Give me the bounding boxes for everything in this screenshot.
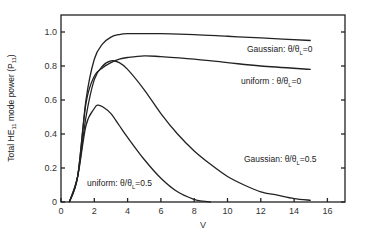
- y-tick-label: 0.2: [44, 163, 57, 173]
- x-tick-label: 8: [192, 206, 197, 216]
- label-uniform-0: uniform : θ/θL=0: [241, 76, 302, 88]
- curves: [69, 34, 310, 202]
- y-tick-label: 0: [52, 197, 57, 207]
- x-tick-label: 6: [158, 206, 163, 216]
- x-tick-label: 2: [92, 206, 97, 216]
- x-axis-label: V: [200, 220, 206, 230]
- x-tick-label: 10: [222, 206, 232, 216]
- chart: 0246810121416 00.20.40.60.81.0 V Total H…: [0, 0, 366, 234]
- x-tick-label: 14: [289, 206, 299, 216]
- y-tick-label: 0.6: [44, 95, 57, 105]
- y-axis-label: Total HE11 mode power (P11): [6, 54, 17, 162]
- label-uniform-05: uniform: θ/θL=0.5: [87, 178, 152, 190]
- label-gaussian-05: Gaussian: θ/θL=0.5: [244, 154, 317, 166]
- y-tick-label: 0.8: [44, 61, 57, 71]
- x-ticks: 0246810121416: [58, 198, 332, 216]
- y-tick-label: 0.4: [44, 129, 57, 139]
- x-tick-label: 0: [58, 206, 63, 216]
- x-tick-label: 16: [322, 206, 332, 216]
- x-tick-label: 4: [125, 206, 130, 216]
- x-tick-label: 12: [256, 206, 266, 216]
- y-tick-label: 1.0: [44, 27, 57, 37]
- label-gaussian-0: Gaussian: θ/θL=0: [247, 44, 313, 56]
